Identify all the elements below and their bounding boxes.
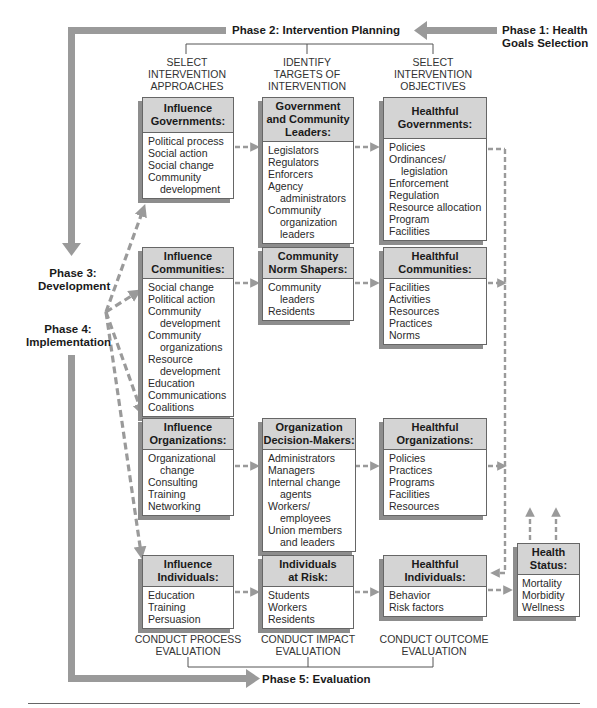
list-item: Practices: [389, 317, 482, 329]
phase-2-label: Phase 2: Intervention Planning: [232, 24, 400, 37]
list-item: Communitydevelopment: [148, 305, 229, 329]
box-title: Government and Community Leaders:: [263, 98, 353, 142]
eval-header-process: CONDUCT PROCESS EVALUATION: [128, 633, 248, 657]
box-title: Healthful Governments:: [384, 98, 486, 139]
box-individuals-at-risk: Individuals at Risk: Students Workers Re…: [262, 555, 354, 629]
item-list: Communityleaders Residents: [263, 279, 353, 320]
phase-3-label: Phase 3: Development: [38, 267, 108, 293]
box-title: Healthful Organizations:: [384, 419, 486, 450]
list-item: Training: [148, 601, 229, 613]
item-list: Political process Social action Social c…: [143, 133, 233, 198]
list-item: Union membersand leaders: [268, 524, 351, 548]
list-item: Networking: [148, 500, 229, 512]
list-item: Students: [268, 589, 349, 601]
list-item: Organizationalchange: [148, 452, 229, 476]
column-header-targets: IDENTIFY TARGETS OF INTERVENTION: [256, 56, 358, 92]
item-list: Social change Political action Community…: [143, 279, 233, 416]
list-item: Norms: [389, 329, 482, 341]
eval-header-outcome: CONDUCT OUTCOME EVALUATION: [372, 633, 496, 657]
list-item: Administrators: [268, 452, 351, 464]
box-community-norm-shapers: Community Norm Shapers: Communityleaders…: [262, 247, 354, 321]
list-item: Workers/employees: [268, 500, 351, 524]
list-item: Communitydevelopment: [148, 171, 229, 195]
box-influence-communities: Influence Communities: Social change Pol…: [142, 247, 234, 417]
list-item: Program: [389, 213, 482, 225]
list-item: Internal changeagents: [268, 476, 351, 500]
list-item: Facilities: [389, 225, 482, 237]
list-item: Behavior: [389, 589, 482, 601]
box-title: Healthful Individuals:: [384, 556, 486, 587]
list-item: Training: [148, 488, 229, 500]
box-title: Influence Organizations:: [143, 419, 233, 450]
box-title: Individuals at Risk:: [263, 556, 353, 587]
box-title: Influence Communities:: [143, 248, 233, 279]
box-title: Community Norm Shapers:: [263, 248, 353, 279]
list-item: Programs: [389, 476, 482, 488]
eval-header-impact: CONDUCT IMPACT EVALUATION: [248, 633, 368, 657]
list-item: Communityorganizations: [148, 329, 229, 353]
list-item: Communityorganizationleaders: [268, 204, 349, 240]
box-healthful-organizations: Healthful Organizations: Policies Practi…: [383, 418, 487, 516]
list-item: Mortality: [522, 577, 576, 589]
list-item: Residents: [268, 305, 349, 317]
box-healthful-governments: Healthful Governments: Policies Ordinanc…: [383, 97, 487, 241]
list-item: Activities: [389, 293, 482, 305]
list-item: Morbidity: [522, 589, 576, 601]
list-item: Political action: [148, 293, 229, 305]
list-item: Social change: [148, 281, 229, 293]
box-influence-governments: Influence Governments: Political process…: [142, 97, 234, 199]
box-influence-organizations: Influence Organizations: Organizationalc…: [142, 418, 234, 516]
list-item: Policies: [389, 141, 482, 153]
list-item: Facilities: [389, 281, 482, 293]
phase-4-label: Phase 4: Implementation: [26, 323, 110, 349]
phase-5-label: Phase 5: Evaluation: [262, 673, 371, 686]
box-influence-individuals: Influence Individuals: Education Trainin…: [142, 555, 234, 629]
list-item: Persuasion: [148, 613, 229, 625]
list-item: Education: [148, 377, 229, 389]
list-item: Regulation: [389, 189, 482, 201]
list-item: Resources: [389, 305, 482, 317]
box-government-community-leaders: Government and Community Leaders: Legisl…: [262, 97, 354, 244]
column-header-objectives: SELECT INTERVENTION OBJECTIVES: [380, 56, 486, 92]
list-item: Risk factors: [389, 601, 482, 613]
list-item: Wellness: [522, 601, 576, 613]
box-healthful-communities: Healthful Communities: Facilities Activi…: [383, 247, 487, 345]
list-item: Legislators: [268, 144, 349, 156]
list-item: Resources: [389, 500, 482, 512]
bottom-divider: [28, 703, 580, 704]
item-list: Students Workers Residents: [263, 587, 353, 628]
item-list: Facilities Activities Resources Practice…: [384, 279, 486, 344]
list-item: Political process: [148, 135, 229, 147]
item-list: Policies Ordinances/legislation Enforcem…: [384, 139, 486, 240]
box-healthful-individuals: Healthful Individuals: Behavior Risk fac…: [383, 555, 487, 617]
list-item: Communityleaders: [268, 281, 349, 305]
list-item: Consulting: [148, 476, 229, 488]
item-list: Behavior Risk factors: [384, 587, 486, 616]
box-health-status: Health Status: Mortality Morbidity Welln…: [517, 543, 580, 617]
list-item: Agencyadministrators: [268, 180, 349, 204]
list-item: Communications: [148, 389, 229, 401]
list-item: Facilities: [389, 488, 482, 500]
box-title: Organization Decision-Makers:: [263, 419, 355, 450]
item-list: Mortality Morbidity Wellness: [518, 575, 579, 616]
item-list: Legislators Regulators Enforcers Agencya…: [263, 142, 353, 243]
box-title: Healthful Communities:: [384, 248, 486, 279]
item-list: Education Training Persuasion: [143, 587, 233, 628]
phase-1-label: Phase 1: Health Goals Selection: [502, 24, 588, 50]
list-item: Education: [148, 589, 229, 601]
column-header-approaches: SELECT INTERVENTION APPROACHES: [136, 56, 238, 92]
list-item: Social action: [148, 147, 229, 159]
list-item: Coalitions: [148, 401, 229, 413]
list-item: Resource allocation: [389, 201, 482, 213]
list-item: Workers: [268, 601, 349, 613]
list-item: Regulators: [268, 156, 349, 168]
item-list: Policies Practices Programs Facilities R…: [384, 450, 486, 515]
item-list: Organizationalchange Consulting Training…: [143, 450, 233, 515]
list-item: Enforcers: [268, 168, 349, 180]
list-item: Ordinances/legislation: [389, 153, 482, 177]
item-list: Administrators Managers Internal changea…: [263, 450, 355, 551]
list-item: Social change: [148, 159, 229, 171]
box-title: Influence Governments:: [143, 98, 233, 133]
list-item: Residents: [268, 613, 349, 625]
list-item: Enforcement: [389, 177, 482, 189]
